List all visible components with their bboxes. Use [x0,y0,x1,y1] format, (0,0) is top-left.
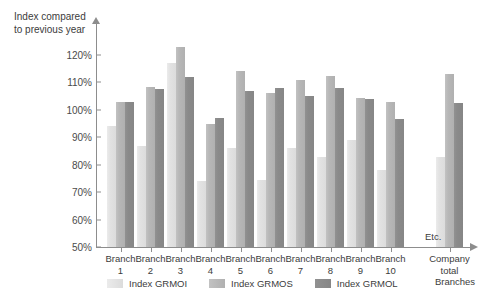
bar [365,99,374,247]
bar-chart: Index compared to previous year 50%60%70… [0,0,495,303]
bar [146,87,155,247]
bar [107,126,116,247]
chart-legend: Index GRMOIIndex GRMOSIndex GRMOL [107,278,420,289]
y-axis-tick-mark [96,164,101,165]
bar [185,77,194,247]
legend-item[interactable]: Index GRMOI [107,278,187,289]
y-axis-tick-label: 50% [48,242,92,253]
bar [137,146,146,247]
bar [395,119,404,247]
y-axis-arrow-icon [92,17,100,24]
bar [266,93,275,247]
y-axis-title: Index compared to previous year [14,11,122,36]
y-axis-tick-mark [96,219,101,220]
bar [257,180,266,247]
x-axis-tick-mark [181,248,182,252]
y-axis-tick-label: 70% [48,187,92,198]
y-axis-tick-mark [96,55,101,56]
y-axis-tick-mark [96,82,101,83]
y-axis-tick-mark [96,109,101,110]
bar [454,103,463,247]
bar [296,80,305,247]
bar [445,74,454,247]
bar [245,91,254,247]
bar [347,140,356,247]
x-axis-tick-mark [241,248,242,252]
bar [227,148,236,247]
legend-swatch-icon [209,279,225,288]
y-axis-tick-label: 110% [48,77,92,88]
bar [326,76,335,247]
bar [215,118,224,247]
x-axis-tick-mark [301,248,302,252]
bar [155,89,164,247]
x-axis-line [96,247,471,248]
y-axis-tick-label: 100% [48,104,92,115]
bar [176,47,185,247]
x-axis-tick-mark [211,248,212,252]
x-axis-tick-mark [450,248,451,252]
y-axis-line [96,22,97,248]
bar [305,96,314,247]
bar [197,181,206,247]
bar [377,170,386,247]
etc-annotation: Etc. [425,231,441,242]
x-axis-tick-mark [151,248,152,252]
x-axis-tick-mark [271,248,272,252]
bar [167,63,176,247]
legend-item-label: Index GRMOL [337,278,398,289]
bar [275,88,284,247]
y-axis-tick-mark [96,192,101,193]
y-axis-tick-mark [96,247,101,248]
y-axis-tick-mark [96,137,101,138]
legend-item-label: Index GRMOS [231,278,293,289]
legend-item[interactable]: Index GRMOL [315,278,398,289]
y-axis-tick-label: 80% [48,159,92,170]
bar [287,148,296,247]
legend-item[interactable]: Index GRMOS [209,278,293,289]
x-axis-tick-mark [391,248,392,252]
x-axis-tick-mark [121,248,122,252]
bar [125,102,134,247]
bar [206,124,215,247]
y-axis-tick-label: 90% [48,132,92,143]
x-axis-category-label: Branch 10 [363,253,419,276]
legend-swatch-icon [315,279,331,288]
x-axis-arrow-icon [470,243,478,251]
legend-swatch-icon [107,279,123,288]
bar [317,157,326,248]
y-axis-tick-label: 120% [48,50,92,61]
bar [116,102,125,247]
bar [236,71,245,247]
bar [386,102,395,247]
x-axis-caption: Branches [420,276,490,288]
bar [335,88,344,247]
legend-item-label: Index GRMOI [129,278,187,289]
bar [356,98,365,247]
x-axis-tick-mark [331,248,332,252]
x-axis-tick-mark [361,248,362,252]
x-axis-category-label: Company total [422,253,478,276]
y-axis-tick-label: 60% [48,214,92,225]
